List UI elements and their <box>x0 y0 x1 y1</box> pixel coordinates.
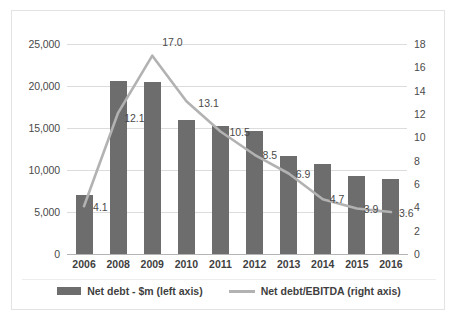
bar <box>348 176 365 254</box>
chart-container: 25,000 20,000 15,000 10,000 5,000 0 18 1… <box>11 10 445 310</box>
x-axis-baseline <box>67 254 408 255</box>
legend-separator <box>22 279 436 280</box>
x-axis-tick-label: 2016 <box>374 258 408 270</box>
legend-label: Net debt/EBITDA (right axis) <box>261 285 401 297</box>
x-axis-tick-label: 2006 <box>67 258 101 270</box>
x-axis-tick-label: 2011 <box>203 258 237 270</box>
gridline <box>67 44 407 45</box>
data-label: 12.1 <box>124 112 144 124</box>
legend-item-net-debt-ebitda[interactable]: Net debt/EBITDA (right axis) <box>229 285 401 297</box>
y-axis-left-tick: 10,000 <box>14 164 60 176</box>
x-axis-tick-label: 2008 <box>101 258 135 270</box>
data-label: 10.5 <box>229 126 249 138</box>
bar <box>110 81 127 254</box>
y-axis-right-tick: 6 <box>414 178 438 190</box>
x-axis-tick-label: 2009 <box>135 258 169 270</box>
data-label: 8.5 <box>263 149 278 161</box>
y-axis-right-tick: 4 <box>414 201 438 213</box>
bar <box>144 82 161 254</box>
legend-label: Net debt - $m (left axis) <box>87 285 203 297</box>
y-axis-left-tick: 5,000 <box>14 206 60 218</box>
chart-legend: Net debt - $m (left axis) Net debt/EBITD… <box>12 285 446 297</box>
plot-area: 25,000 20,000 15,000 10,000 5,000 0 18 1… <box>12 11 446 309</box>
bar <box>314 164 331 254</box>
data-label: 17.0 <box>162 36 182 48</box>
x-axis-tick-label: 2013 <box>272 258 306 270</box>
legend-item-net-debt[interactable]: Net debt - $m (left axis) <box>57 285 203 297</box>
data-label: 3.9 <box>364 203 379 215</box>
y-axis-right-tick: 16 <box>414 61 438 73</box>
data-label: 4.7 <box>330 193 345 205</box>
bar-swatch-icon <box>57 287 81 295</box>
bar <box>246 131 263 254</box>
data-label: 6.9 <box>296 168 311 180</box>
data-label: 4.1 <box>93 201 108 213</box>
data-label: 3.6 <box>399 207 414 219</box>
bar <box>178 120 195 254</box>
x-axis-tick-label: 2015 <box>340 258 374 270</box>
y-axis-left-tick: 20,000 <box>14 80 60 92</box>
y-axis-right-tick: 18 <box>414 38 438 50</box>
y-axis-right-tick: 8 <box>414 155 438 167</box>
x-axis-tick-label: 2014 <box>306 258 340 270</box>
y-axis-right-tick: 14 <box>414 85 438 97</box>
bar <box>212 126 229 254</box>
line-swatch-icon <box>229 290 255 293</box>
y-axis-right-tick: 10 <box>414 131 438 143</box>
bar <box>76 195 93 254</box>
y-axis-right-tick: 12 <box>414 108 438 120</box>
x-axis-tick-label: 2012 <box>238 258 272 270</box>
y-axis-left-tick: 25,000 <box>14 38 60 50</box>
y-axis-right-tick: 0 <box>414 248 438 260</box>
y-axis-left-tick: 0 <box>14 248 60 260</box>
y-axis-left-tick: 15,000 <box>14 122 60 134</box>
x-axis-tick-label: 2010 <box>169 258 203 270</box>
bar <box>280 156 297 254</box>
bar <box>382 179 399 254</box>
data-label: 13.1 <box>198 97 218 109</box>
y-axis-right-tick: 2 <box>414 225 438 237</box>
